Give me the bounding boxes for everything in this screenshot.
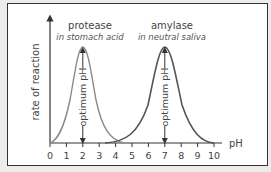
svg-text:3: 3: [96, 150, 102, 161]
amylase-title: amylase: [151, 20, 193, 31]
svg-text:1: 1: [63, 150, 69, 161]
y-axis-label: rate of reaction: [30, 43, 41, 120]
protease-optimum-label: optimum pH: [77, 68, 88, 127]
protease-subtitle: in stomach acid: [56, 32, 124, 42]
svg-text:6: 6: [145, 150, 151, 161]
amylase-subtitle: in neutral saliva: [138, 32, 206, 42]
protease-title: protease: [68, 20, 112, 31]
svg-text:0: 0: [47, 150, 53, 161]
x-axis-label: pH: [229, 138, 243, 149]
svg-text:9: 9: [195, 150, 201, 161]
svg-text:8: 8: [178, 150, 184, 161]
svg-text:2: 2: [80, 150, 86, 161]
x-tick-labels: 0 1 2 3 4 5 6 7 8 9 10: [47, 150, 220, 161]
svg-text:7: 7: [162, 150, 168, 161]
svg-text:5: 5: [129, 150, 135, 161]
enzyme-ph-diagram: 0 1 2 3 4 5 6 7 8 9 10 pH rate of reacti…: [0, 0, 271, 172]
x-ticks: [50, 143, 214, 147]
svg-text:10: 10: [208, 150, 220, 161]
amylase-optimum-label: optimum pH: [159, 68, 170, 127]
svg-text:4: 4: [113, 150, 119, 161]
